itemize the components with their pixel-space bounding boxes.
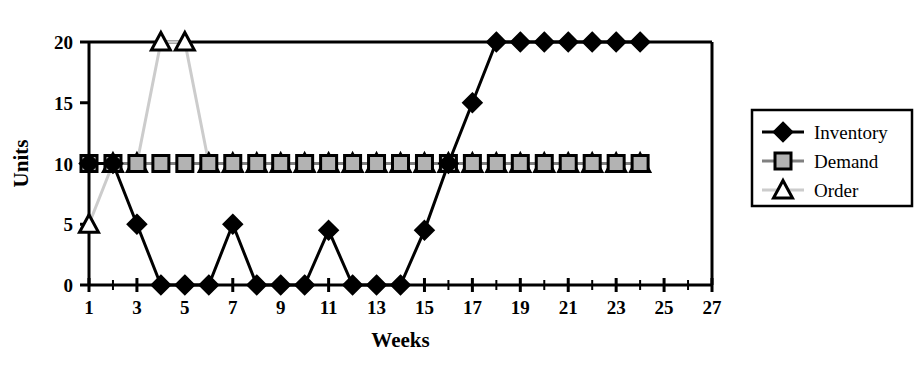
x-tick-label: 17 [463,297,483,318]
data-point-inventory [296,276,314,294]
data-point-inventory [631,33,649,51]
y-tick-label: 0 [64,275,74,296]
data-point-inventory [511,33,529,51]
data-point-demand [416,156,432,172]
data-point-demand [488,156,504,172]
y-axis-title: Units [9,140,33,188]
data-point-inventory [583,33,601,51]
x-tick-label: 3 [132,297,142,318]
data-point-demand [201,156,217,172]
legend-label-order: Order [814,180,859,201]
x-tick-label: 23 [607,297,626,318]
x-tick-label: 27 [703,297,723,318]
data-point-demand [177,156,193,172]
x-tick-label: 21 [559,297,578,318]
data-point-inventory [607,33,625,51]
data-point-inventory [344,276,362,294]
data-point-inventory [535,33,553,51]
x-tick-label: 19 [511,297,530,318]
data-point-demand [345,156,361,172]
legend-item-inventory[interactable]: Inventory [762,122,888,143]
data-point-inventory [320,221,338,239]
series-order [80,33,650,233]
data-point-demand [464,156,480,172]
y-tick-label: 20 [54,32,73,53]
data-point-demand [153,156,169,172]
line-chart: 0510152013579111315171921232527WeeksUnit… [0,0,922,367]
data-point-inventory [487,33,505,51]
data-point-demand [632,156,648,172]
x-tick-label: 1 [84,297,94,318]
data-point-inventory [152,276,170,294]
y-tick-label: 10 [54,154,73,175]
x-tick-label: 25 [655,297,674,318]
data-point-inventory [463,94,481,112]
chart-container: 0510152013579111315171921232527WeeksUnit… [0,0,922,367]
legend-marker-demand [775,153,791,169]
data-point-demand [249,156,265,172]
x-tick-label: 15 [415,297,434,318]
data-point-inventory [248,276,266,294]
data-point-inventory [200,276,218,294]
legend-label-demand: Demand [814,151,879,172]
data-point-inventory [415,221,433,239]
series-demand [81,156,648,172]
data-point-demand [129,156,145,172]
data-point-inventory [176,276,194,294]
legend-item-demand[interactable]: Demand [762,151,879,172]
data-point-inventory [224,215,242,233]
x-tick-label: 13 [367,297,386,318]
x-tick-label: 5 [180,297,190,318]
data-point-demand [321,156,337,172]
x-axis-title: Weeks [371,328,429,352]
x-tick-label: 7 [228,297,238,318]
data-point-demand [393,156,409,172]
data-point-demand [560,156,576,172]
data-point-inventory [392,276,410,294]
y-tick-label: 15 [54,93,73,114]
data-point-demand [297,156,313,172]
data-point-demand [536,156,552,172]
data-point-demand [369,156,385,172]
data-point-demand [273,156,289,172]
data-point-inventory [272,276,290,294]
x-tick-label: 11 [320,297,338,318]
data-point-demand [512,156,528,172]
data-point-demand [225,156,241,172]
series-line-order [89,42,640,224]
data-point-inventory [559,33,577,51]
legend: InventoryDemandOrder [752,110,912,206]
x-tick-label: 9 [276,297,286,318]
data-point-demand [608,156,624,172]
legend-label-inventory: Inventory [814,122,888,143]
data-point-inventory [368,276,386,294]
y-tick-label: 5 [64,214,74,235]
data-point-inventory [128,215,146,233]
data-point-demand [584,156,600,172]
